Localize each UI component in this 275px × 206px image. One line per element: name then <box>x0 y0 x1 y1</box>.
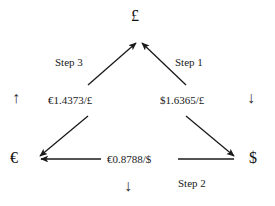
rate-eur-per-usd: €0.8788/$ <box>107 154 151 165</box>
diagram-vectors <box>0 0 275 206</box>
node-pound: £ <box>131 8 139 24</box>
step-2-label: Step 2 <box>178 178 206 189</box>
arrow-left-leg-to-eur <box>40 116 88 156</box>
down-arrow-bottom-icon: ↓ <box>124 178 132 194</box>
node-euro: € <box>10 150 18 166</box>
rate-usd-per-gbp: $1.6365/£ <box>160 95 204 106</box>
node-dollar: $ <box>249 150 257 166</box>
arrow-eur-to-gbp <box>88 43 136 85</box>
up-arrow-icon: ↑ <box>12 90 20 106</box>
step-1-label: Step 1 <box>175 57 203 68</box>
arbitrage-diagram: £ € $ €1.4373/£ $1.6365/£ €0.8788/$ Step… <box>0 0 275 206</box>
arrow-gbp-to-usd <box>186 116 234 156</box>
step-3-label: Step 3 <box>55 57 83 68</box>
down-arrow-icon: ↓ <box>247 90 255 106</box>
rate-eur-per-gbp: €1.4373/£ <box>48 95 92 106</box>
